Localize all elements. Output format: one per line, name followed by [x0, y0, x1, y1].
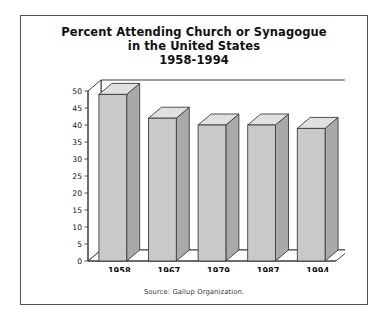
y-tick-label: 30 [72, 155, 82, 164]
y-tick-label: 40 [72, 121, 82, 130]
chart-plot-area: 05101520253035404550 1958196719791987199… [64, 75, 345, 272]
x-tick-label-1987: 1987 [257, 266, 280, 272]
y-tick-label: 10 [72, 223, 82, 232]
x-tick-label-1967: 1967 [158, 266, 181, 272]
figure-frame: Percent Attending Church or Synagogue in… [20, 15, 368, 305]
bar-1958 [99, 83, 140, 261]
y-tick-label: 35 [72, 138, 82, 147]
y-tick-label: 20 [72, 189, 82, 198]
y-axis-tick-labels: 05101520253035404550 [72, 87, 82, 266]
bar-1994 [297, 117, 338, 261]
title-line-1: Percent Attending Church or Synagogue [21, 25, 367, 39]
x-axis-tick-labels: 19581967197919871994 [108, 266, 329, 272]
x-tick-label-1979: 1979 [207, 266, 230, 272]
y-tick-label: 15 [72, 206, 82, 215]
y-tick-label: 25 [72, 172, 82, 181]
title-line-2: in the United States [21, 39, 367, 53]
bar-chart-svg: 05101520253035404550 1958196719791987199… [64, 75, 345, 272]
x-tick-label-1994: 1994 [306, 266, 329, 272]
source-note: Source: Gallup Organization. [21, 288, 367, 296]
page-title: Percent Attending Church or Synagogue in… [21, 25, 367, 67]
y-tick-label: 5 [77, 240, 82, 249]
title-line-3: 1958-1994 [21, 53, 367, 67]
x-tick-label-1958: 1958 [108, 266, 131, 272]
bar-1967 [149, 107, 190, 261]
bar-1979 [198, 114, 239, 261]
y-tick-label: 45 [72, 104, 82, 113]
y-tick-label: 50 [72, 87, 82, 96]
bar-1987 [248, 114, 289, 261]
y-tick-label: 0 [77, 257, 82, 266]
